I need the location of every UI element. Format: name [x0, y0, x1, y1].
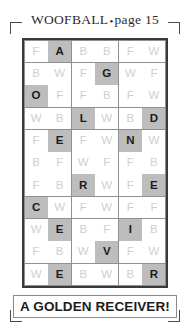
page-number-label: page 15: [115, 12, 159, 27]
grid-cell-r6-c3[interactable]: W: [72, 152, 95, 174]
grid-cell-r10-c2[interactable]: B: [48, 241, 71, 263]
grid-cell-r3-c5[interactable]: F: [119, 85, 142, 107]
grid-cell-r7-c3[interactable]: R: [72, 174, 95, 196]
grid-cell-r6-c5[interactable]: F: [119, 152, 142, 174]
grid-cell-r4-c6[interactable]: D: [142, 108, 165, 130]
grid-cell-r4-c5[interactable]: B: [119, 108, 142, 130]
grid-cell-r11-c3[interactable]: B: [72, 264, 95, 286]
grid-cell-r7-c5[interactable]: F: [119, 174, 142, 196]
grid-cell-r8-c5[interactable]: F: [119, 197, 142, 219]
grid-cell-r5-c1[interactable]: F: [25, 130, 48, 152]
grid-cell-r2-c1[interactable]: B: [25, 63, 48, 85]
answer-text: A GOLDEN RECEIVER!: [20, 299, 170, 314]
grid-cell-r8-c2[interactable]: W: [48, 197, 71, 219]
grid-cell-r9-c4[interactable]: F: [95, 219, 118, 241]
grid-cell-r1-c3[interactable]: B: [72, 41, 95, 63]
grid-cell-r9-c2[interactable]: E: [48, 219, 71, 241]
grid-cell-r10-c1[interactable]: F: [25, 241, 48, 263]
grid-cell-r7-c4[interactable]: W: [95, 174, 118, 196]
grid-cell-r1-c2[interactable]: A: [48, 41, 71, 63]
grid-cell-r11-c4[interactable]: W: [95, 264, 118, 286]
grid-cell-r3-c6[interactable]: W: [142, 85, 165, 107]
grid-cell-r8-c3[interactable]: F: [72, 197, 95, 219]
grid-cell-r11-c6[interactable]: R: [142, 264, 165, 286]
grid-cell-r6-c6[interactable]: B: [142, 152, 165, 174]
grid-cell-r6-c1[interactable]: B: [25, 152, 48, 174]
grid-cell-r2-c4[interactable]: G: [95, 63, 118, 85]
grid-cell-r11-c1[interactable]: W: [25, 264, 48, 286]
grid-cell-r4-c1[interactable]: W: [25, 108, 48, 130]
grid-cell-r10-c3[interactable]: W: [72, 241, 95, 263]
grid-cell-r8-c1[interactable]: C: [25, 197, 48, 219]
page-title: WOOFBALL•page 15: [0, 12, 190, 28]
grid-cell-r10-c4[interactable]: V: [95, 241, 118, 263]
grid-cell-r3-c3[interactable]: F: [72, 85, 95, 107]
grid-cell-r8-c6[interactable]: F: [142, 197, 165, 219]
grid-cell-r5-c6[interactable]: W: [142, 130, 165, 152]
answer-bar: A GOLDEN RECEIVER!: [13, 295, 177, 318]
grid-cell-r7-c6[interactable]: E: [142, 174, 165, 196]
grid-cell-r2-c2[interactable]: W: [48, 63, 71, 85]
grid-cell-r2-c3[interactable]: F: [72, 63, 95, 85]
grid-cell-r1-c5[interactable]: F: [119, 41, 142, 63]
grid-cell-r10-c6[interactable]: W: [142, 241, 165, 263]
grid-cell-r11-c2[interactable]: E: [48, 264, 71, 286]
grid-cell-r9-c6[interactable]: B: [142, 219, 165, 241]
grid-cell-r5-c4[interactable]: W: [95, 130, 118, 152]
puzzle-name: WOOFBALL: [31, 12, 108, 27]
grid-cell-r4-c2[interactable]: B: [48, 108, 71, 130]
grid-cell-r2-c6[interactable]: F: [142, 63, 165, 85]
grid-cell-r3-c4[interactable]: B: [95, 85, 118, 107]
grid-cell-r6-c2[interactable]: F: [48, 152, 71, 174]
grid-cell-r10-c5[interactable]: F: [119, 241, 142, 263]
grid-cell-r8-c4[interactable]: W: [95, 197, 118, 219]
grid-cell-r7-c2[interactable]: B: [48, 174, 71, 196]
grid-cell-r4-c4[interactable]: W: [95, 108, 118, 130]
grid-cell-r9-c5[interactable]: I: [119, 219, 142, 241]
grid-cell-r1-c1[interactable]: F: [25, 41, 48, 63]
grid-cell-r7-c1[interactable]: F: [25, 174, 48, 196]
grid-cell-r9-c1[interactable]: W: [25, 219, 48, 241]
grid-cell-r9-c3[interactable]: B: [72, 219, 95, 241]
grid-cell-r1-c6[interactable]: W: [142, 41, 165, 63]
grid-cell-r1-c4[interactable]: B: [95, 41, 118, 63]
letter-grid[interactable]: FABBFWBWFGWFOFFBFWWBLWBDFEFWNWBFWFFBFBRW…: [22, 38, 168, 288]
grid-cell-r5-c3[interactable]: F: [72, 130, 95, 152]
grid-cell-r5-c5[interactable]: N: [119, 130, 142, 152]
grid-cell-r6-c4[interactable]: F: [95, 152, 118, 174]
grid-cell-r2-c5[interactable]: W: [119, 63, 142, 85]
grid-cell-r4-c3[interactable]: L: [72, 108, 95, 130]
grid-cell-r5-c2[interactable]: E: [48, 130, 71, 152]
grid-cell-r3-c2[interactable]: F: [48, 85, 71, 107]
grid-cell-r11-c5[interactable]: B: [119, 264, 142, 286]
puzzle-card: WOOFBALL•page 15 FABBFWBWFGWFOFFBFWWBLWB…: [0, 0, 190, 334]
grid-cell-r3-c1[interactable]: O: [25, 85, 48, 107]
